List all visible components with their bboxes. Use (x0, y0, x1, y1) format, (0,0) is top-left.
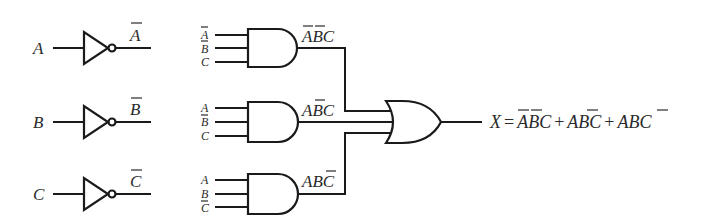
inverter-b-input-label: B (33, 113, 44, 132)
inverter-a-bubble (109, 45, 116, 52)
inverter-c-triangle (84, 178, 108, 210)
inverter-b-output-label: B (130, 100, 141, 119)
and-gate-1: A B C ABC (200, 26, 346, 69)
inverter-c: C C (33, 170, 151, 210)
and-gate-3: A B C ABC (200, 171, 346, 215)
and-gate-2: A B C ABC (200, 100, 392, 143)
inverter-b-triangle (84, 106, 108, 138)
inverter-c-bubble (109, 191, 116, 198)
and-gate-3-input-3-label: C (201, 201, 210, 215)
logic-circuit-diagram: A A B B C C A B C ABC (0, 0, 701, 222)
inverter-b: B B (33, 98, 151, 138)
inverter-a-input-label: A (32, 39, 44, 58)
output-equation: X=ABC+ABC+ABC (489, 110, 668, 132)
wire-gate3-to-or (345, 133, 392, 194)
inverter-c-input-label: C (33, 185, 45, 204)
and-gate-3-input-2-label: B (201, 187, 209, 201)
or-gate (386, 101, 482, 143)
and-gate-3-input-1-label: A (200, 173, 209, 187)
inverter-a: A A (32, 23, 151, 64)
and-gate-1-input-3-label: C (201, 55, 210, 69)
output-equation-text: X=ABC+ABC+ABC (489, 112, 653, 132)
and-gate-1-input-2-label: B (201, 42, 209, 56)
and-gate-2-input-1-label: A (200, 101, 209, 115)
and-gate-1-output-label: ABC (301, 27, 335, 46)
inverter-a-triangle (84, 32, 108, 64)
and-gate-2-output-label: ABC (301, 101, 335, 120)
and-gate-2-input-3-label: C (201, 129, 210, 143)
inverter-b-bubble (109, 119, 116, 126)
and-gate-2-input-2-label: B (201, 115, 209, 129)
and-gate-3-output-label: ABC (301, 172, 335, 191)
and-gate-2-body (248, 102, 298, 142)
wire-gate1-to-or (345, 48, 392, 111)
and-gate-1-body (248, 29, 297, 67)
and-gate-3-body (248, 174, 298, 214)
and-gate-1-input-1-label: A (200, 28, 209, 42)
or-gate-body (386, 101, 441, 143)
inverter-c-output-label: C (130, 172, 142, 191)
inverter-a-output-label: A (129, 26, 141, 45)
